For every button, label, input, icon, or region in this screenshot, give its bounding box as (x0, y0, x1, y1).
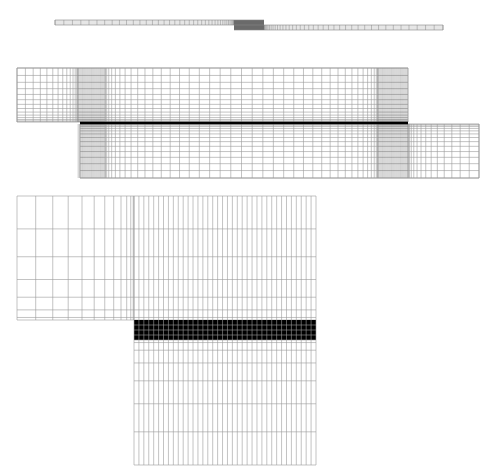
fe-mesh-diagram (0, 0, 498, 473)
overlap-end-detail-view (17, 196, 316, 465)
overlap-region-view (17, 68, 479, 178)
upper-adherend (55, 20, 264, 25)
overall-joint-view (55, 20, 443, 30)
lower-adherend (234, 25, 443, 30)
